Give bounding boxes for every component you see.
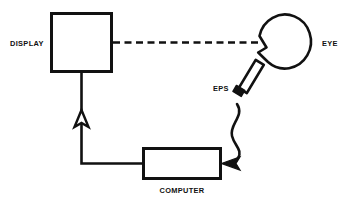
eye-globe xyxy=(258,15,311,69)
eye-tracking-setup-diagram: DISPLAY EYE EPS COMPUTER xyxy=(0,0,352,204)
diagram-canvas: DISPLAY EYE EPS COMPUTER xyxy=(0,0,352,204)
display-box xyxy=(52,14,112,72)
eps-label: EPS xyxy=(213,84,229,93)
computer-label: COMPUTER xyxy=(159,186,204,195)
eps-to-computer-wire xyxy=(230,104,240,164)
eye-label: EYE xyxy=(322,39,338,48)
eps-sensor xyxy=(233,60,264,96)
computer-to-display-wire xyxy=(82,72,144,164)
computer-box xyxy=(144,149,221,179)
display-label: DISPLAY xyxy=(10,39,44,48)
computer-input-arrowhead xyxy=(222,157,241,170)
